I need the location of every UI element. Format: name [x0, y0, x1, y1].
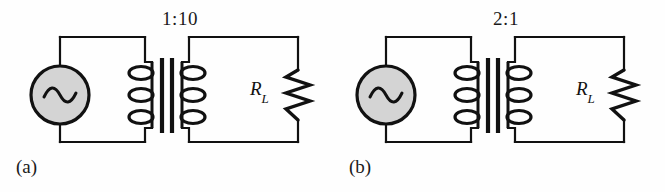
panel-caption-b: (b) — [349, 156, 371, 178]
panel-caption-a: (a) — [16, 156, 37, 178]
circuit-panel-b: 2:1 — [333, 0, 665, 192]
resistor-zigzag-icon-b — [612, 70, 636, 120]
circuit-schematic-b — [333, 0, 665, 192]
resistor-zigzag-icon-a — [286, 70, 310, 120]
figure-root: 1:10 — [0, 0, 665, 192]
load-resistor-subscript-b: L — [588, 91, 595, 106]
load-resistor-label-a: RL — [250, 78, 269, 104]
transformer-core-icon-b — [488, 58, 498, 133]
load-resistor-subscript-a: L — [262, 91, 269, 106]
ac-source-sine-icon-a — [31, 66, 89, 124]
secondary-coil-icon-a — [181, 62, 205, 128]
primary-coil-icon-b — [455, 62, 479, 128]
load-resistor-symbol-b: R — [576, 78, 588, 99]
secondary-coil-icon-b — [507, 62, 531, 128]
circuit-schematic-a — [0, 0, 332, 192]
primary-coil-icon-a — [129, 62, 153, 128]
ac-source-sine-icon-b — [357, 66, 415, 124]
transformer-core-icon-a — [162, 58, 172, 133]
load-resistor-symbol-a: R — [250, 78, 262, 99]
circuit-panel-a: 1:10 — [0, 0, 332, 192]
load-resistor-label-b: RL — [576, 78, 595, 104]
